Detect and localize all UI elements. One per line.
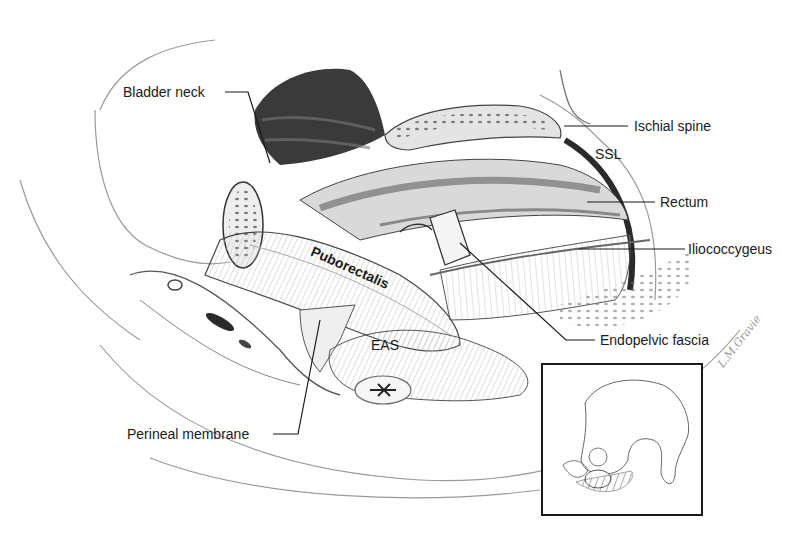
external-anal-sphincter — [329, 330, 528, 404]
label-rectum: Rectum — [660, 194, 708, 210]
label-eas: EAS — [371, 337, 399, 353]
label-ischial-spine: Ischial spine — [634, 118, 711, 134]
inset-pelvis-sketch — [543, 365, 701, 514]
orientation-inset — [541, 363, 703, 516]
ischial-spine — [560, 70, 590, 124]
label-perineal-membrane: Perineal membrane — [127, 426, 249, 442]
label-endopelvic-fascia: Endopelvic fascia — [600, 332, 709, 348]
label-bladder-neck: Bladder neck — [123, 84, 205, 100]
label-iliococcygeus: Iliococcygeus — [688, 241, 772, 257]
label-ssl: SSL — [595, 146, 621, 162]
rectum — [300, 159, 628, 240]
anatomy-figure: Bladder neck Ischial spine SSL Rectum Il… — [0, 0, 801, 543]
